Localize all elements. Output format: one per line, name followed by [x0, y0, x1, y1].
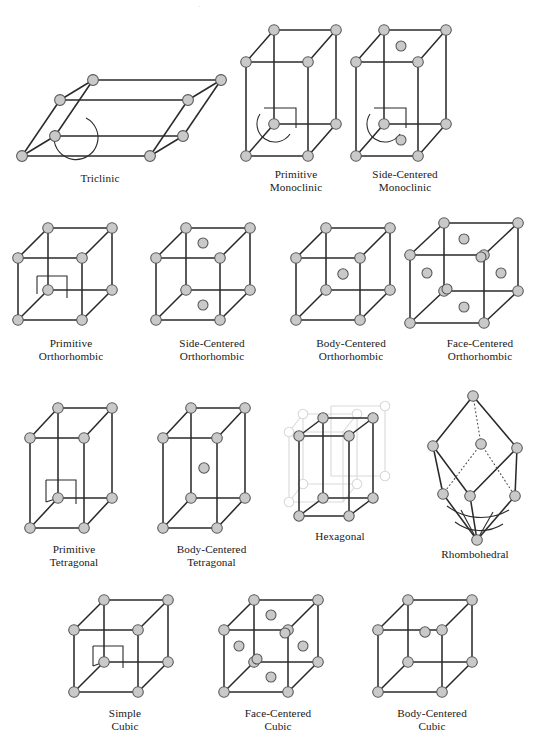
caption-triclinic: Triclinic [30, 172, 170, 185]
caption-body-centered-cubic: Body-Centered Cubic [362, 707, 502, 733]
rhombohedral-diagram [405, 388, 545, 548]
caption-side-centered-monoclinic: Side-Centered Monoclinic [335, 168, 475, 194]
scan-artifact-top: · [198, 1, 201, 11]
caption-body-centered-orthorhombic: Body-Centered Orthorhombic [281, 337, 421, 363]
cell-triclinic [8, 58, 208, 168]
cell-primitive-monoclinic [238, 22, 353, 170]
cell-face-centered-cubic [216, 592, 341, 704]
cell-primitive-tetragonal [22, 400, 142, 540]
caption-primitive-orthorhombic: Primitive Orthorhombic [6, 337, 136, 363]
cell-body-centered-tetragonal [155, 400, 275, 540]
cell-primitive-orthorhombic [10, 220, 135, 332]
body-centered-cubic-diagram [370, 592, 495, 704]
caption-rhombohedral: Rhombohedral [410, 548, 540, 561]
primitive-orthorhombic-diagram [10, 220, 135, 332]
primitive-monoclinic-diagram [238, 22, 353, 170]
cell-side-centered-orthorhombic [148, 220, 273, 332]
body-centered-tetragonal-diagram [155, 400, 275, 540]
cell-side-centered-monoclinic [348, 22, 473, 170]
caption-face-centered-orthorhombic: Face-Centered Orthorhombic [410, 337, 550, 363]
face-centered-cubic-diagram [216, 592, 341, 704]
side-centered-monoclinic-diagram [348, 22, 473, 170]
cell-body-centered-orthorhombic [288, 220, 413, 332]
triclinic-diagram [8, 58, 208, 168]
bravais-lattice-figure: Triclinic [0, 0, 553, 743]
body-centered-orthorhombic-diagram [288, 220, 413, 332]
caption-face-centered-cubic: Face-Centered Cubic [208, 707, 348, 733]
caption-hexagonal: Hexagonal [285, 530, 395, 543]
primitive-tetragonal-diagram [22, 400, 142, 540]
side-centered-orthorhombic-diagram [148, 220, 273, 332]
caption-simple-cubic: Simple Cubic [65, 707, 185, 733]
caption-primitive-tetragonal: Primitive Tetragonal [14, 543, 134, 569]
cell-rhombohedral [405, 388, 545, 548]
cell-hexagonal [285, 392, 410, 540]
cell-simple-cubic [66, 592, 186, 704]
cell-face-centered-orthorhombic [402, 215, 547, 335]
cell-body-centered-cubic [370, 592, 495, 704]
simple-cubic-diagram [66, 592, 186, 704]
caption-body-centered-tetragonal: Body-Centered Tetragonal [144, 543, 279, 569]
caption-side-centered-orthorhombic: Side-Centered Orthorhombic [142, 337, 282, 363]
hexagonal-diagram [285, 392, 410, 540]
face-centered-orthorhombic-diagram [402, 215, 547, 335]
